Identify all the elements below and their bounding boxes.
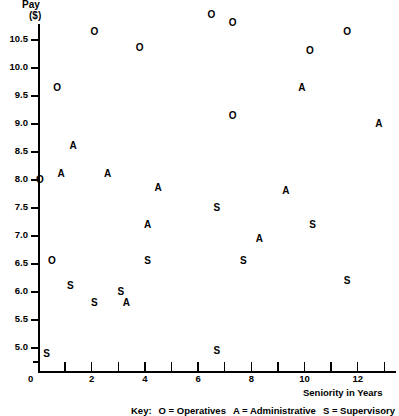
x-tick: 6: [197, 362, 199, 371]
y-tick: 7.5: [31, 207, 38, 209]
data-point-a: A: [256, 234, 263, 244]
x-tick: [277, 362, 279, 371]
data-point-o: O: [136, 43, 144, 53]
y-axis-line: [38, 24, 40, 373]
legend-entry-a: A = Administrative: [233, 405, 316, 416]
data-point-s: S: [240, 256, 247, 266]
data-point-a: A: [375, 119, 382, 129]
data-point-o: O: [229, 18, 237, 28]
x-tick-label: 12: [352, 373, 363, 384]
y-tick: 6.5: [31, 263, 38, 265]
y-tick-label: 6.5: [15, 257, 28, 268]
legend-entry-s: S = Supervisory: [323, 405, 395, 416]
data-point-a: A: [123, 298, 130, 308]
y-tick-label: 5.0: [15, 341, 28, 352]
x-tick: [224, 362, 226, 371]
data-point-a: A: [57, 169, 64, 179]
data-point-s: S: [309, 220, 316, 230]
data-point-o: O: [36, 175, 44, 185]
y-tick-label: 8.5: [15, 145, 28, 156]
legend-prefix: Key:: [131, 405, 152, 416]
origin-label: 0: [28, 373, 33, 384]
data-point-o: O: [229, 111, 237, 121]
y-tick: 5.5: [31, 319, 38, 321]
y-tick: 8.5: [31, 151, 38, 153]
y-tick-label: 6.0: [15, 285, 28, 296]
data-point-o: O: [343, 27, 351, 37]
y-axis-title: Pay: [22, 0, 40, 10]
data-point-a: A: [69, 141, 76, 151]
x-tick-label: 2: [89, 373, 94, 384]
scatter-plot-figure: Pay ($) 10.510.09.59.08.58.07.57.06.56.0…: [0, 0, 399, 416]
data-point-o: O: [53, 83, 61, 93]
data-point-o: O: [90, 27, 98, 37]
y-tick-label: 5.5: [15, 313, 28, 324]
x-tick: [384, 362, 386, 371]
x-tick: [118, 362, 120, 371]
x-tick: [64, 362, 66, 371]
x-axis-title: Seniority in Years: [303, 387, 383, 398]
x-tick-label: 6: [195, 373, 200, 384]
data-point-s: S: [91, 298, 98, 308]
y-tick-label: 9.5: [15, 89, 28, 100]
x-tick-label: 10: [299, 373, 310, 384]
y-tick: 6.0: [31, 291, 38, 293]
y-tick-label: 9.0: [15, 117, 28, 128]
y-tick-label: 7.0: [15, 229, 28, 240]
y-tick: 5.0: [31, 347, 38, 349]
x-tick: [330, 362, 332, 371]
x-tick-label: 4: [142, 373, 147, 384]
y-tick-label: 8.0: [15, 173, 28, 184]
legend-entry-o: O = Operatives: [159, 405, 226, 416]
x-tick-label: 8: [249, 373, 254, 384]
data-point-s: S: [118, 287, 125, 297]
x-tick: 2: [91, 362, 93, 371]
x-tick: [38, 362, 40, 371]
x-tick: 12: [357, 362, 359, 371]
data-point-a: A: [282, 186, 289, 196]
data-point-a: A: [155, 183, 162, 193]
data-point-s: S: [213, 203, 220, 213]
data-point-s: S: [344, 276, 351, 286]
y-tick-label: 10.5: [10, 33, 29, 44]
data-point-s: S: [43, 349, 50, 359]
y-tick: 9.5: [31, 95, 38, 97]
legend-key: Key:O = OperativesA = AdministrativeS = …: [131, 405, 399, 416]
y-axis-title-units: ($): [29, 10, 41, 21]
data-point-o: O: [48, 256, 56, 266]
x-tick: 8: [251, 362, 253, 371]
y-tick-label: 7.5: [15, 201, 28, 212]
x-tick: 10: [304, 362, 306, 371]
y-tick: 7.0: [31, 235, 38, 237]
data-point-a: A: [104, 169, 111, 179]
y-tick: 9.0: [31, 123, 38, 125]
data-point-a: A: [298, 83, 305, 93]
y-tick: 10.0: [31, 67, 38, 69]
data-point-a: A: [144, 220, 151, 230]
x-tick: [171, 362, 173, 371]
data-point-o: O: [208, 10, 216, 20]
data-point-s: S: [144, 256, 151, 266]
y-tick: 10.5: [31, 39, 38, 41]
x-tick: 4: [144, 362, 146, 371]
data-point-s: S: [213, 346, 220, 356]
y-tick-label: 10.0: [10, 61, 29, 72]
data-point-s: S: [67, 281, 74, 291]
data-point-o: O: [306, 46, 314, 56]
